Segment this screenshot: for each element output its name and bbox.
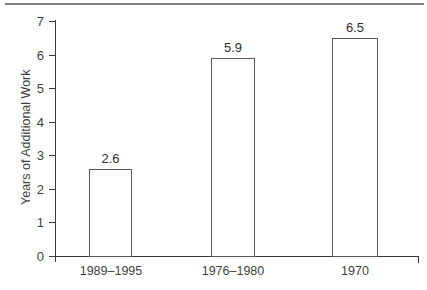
y-tick-label-0: 0 xyxy=(20,250,44,263)
y-tick-label-7: 7 xyxy=(20,15,44,28)
x-axis-origin-tick xyxy=(55,250,56,262)
y-tick-mark-1 xyxy=(49,222,55,223)
y-tick-2: 2 xyxy=(20,183,44,196)
bar-1970[interactable] xyxy=(332,38,378,257)
y-axis-title: Years of Additional Work xyxy=(20,37,33,237)
y-axis-line xyxy=(55,20,56,257)
y-tick-4: 4 xyxy=(20,116,44,129)
y-tick-label-4: 4 xyxy=(20,116,44,129)
x-axis-end-tick xyxy=(418,256,419,263)
bar-1976-1980[interactable] xyxy=(211,58,255,257)
top-horizontal-rule xyxy=(5,3,424,5)
y-tick-mark-7 xyxy=(49,21,55,22)
x-axis-label-1970: 1970 xyxy=(295,265,415,278)
x-axis-label-1976-1980: 1976–1980 xyxy=(173,265,293,278)
y-tick-label-6: 6 xyxy=(20,49,44,62)
bar-value-label-1989-1995: 2.6 xyxy=(89,152,132,165)
y-tick-label-5: 5 xyxy=(20,82,44,95)
y-tick-label-3: 3 xyxy=(20,149,44,162)
y-tick-1: 1 xyxy=(20,216,44,229)
y-tick-6: 6 xyxy=(20,49,44,62)
bar-chart-figure: Years of Additional Work 0 1 2 3 4 5 6 7 xyxy=(0,0,427,290)
y-tick-7: 7 xyxy=(20,15,44,28)
y-tick-mark-5 xyxy=(49,88,55,89)
bar-1989-1995[interactable] xyxy=(89,169,132,257)
y-tick-5: 5 xyxy=(20,82,44,95)
y-tick-label-2: 2 xyxy=(20,183,44,196)
y-tick-label-1: 1 xyxy=(20,216,44,229)
y-tick-mark-2 xyxy=(49,189,55,190)
bar-value-label-1976-1980: 5.9 xyxy=(211,41,255,54)
y-tick-3: 3 xyxy=(20,149,44,162)
y-tick-mark-6 xyxy=(49,55,55,56)
y-tick-mark-3 xyxy=(49,155,55,156)
bar-value-label-1970: 6.5 xyxy=(332,21,378,34)
y-tick-0: 0 xyxy=(20,250,44,263)
y-tick-mark-4 xyxy=(49,122,55,123)
x-axis-label-1989-1995: 1989–1995 xyxy=(51,265,171,278)
